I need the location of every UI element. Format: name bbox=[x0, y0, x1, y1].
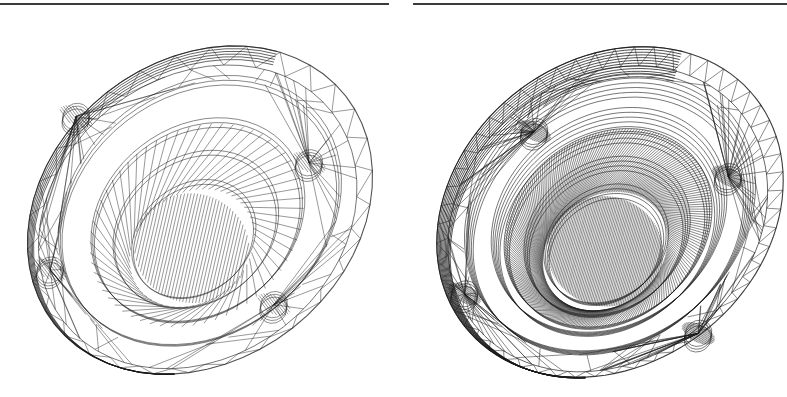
coarse-mesh-render bbox=[0, 0, 395, 397]
wireframe-svg bbox=[0, 0, 395, 397]
refined-mesh-render bbox=[398, 0, 787, 397]
wireframe-svg bbox=[398, 0, 787, 397]
